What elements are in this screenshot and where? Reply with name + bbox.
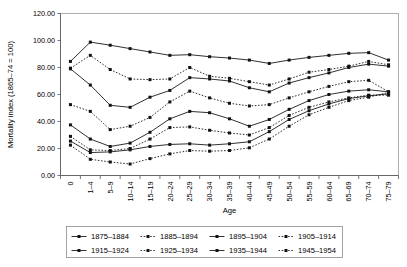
data-point-marker xyxy=(268,84,271,87)
data-point-marker xyxy=(228,149,231,152)
x-axis-tick-label: 65–69 xyxy=(344,182,353,202)
data-point-marker xyxy=(109,44,112,47)
data-point-marker xyxy=(387,59,390,62)
data-point-marker xyxy=(367,51,370,54)
legend-marker-swatch xyxy=(216,235,219,238)
data-point-marker xyxy=(69,67,72,70)
y-axis-title: Mortality index (1865–74 = 100) xyxy=(6,41,15,148)
data-point-marker xyxy=(308,76,311,79)
data-point-marker xyxy=(268,118,271,121)
data-point-marker xyxy=(228,131,231,134)
data-point-marker xyxy=(89,84,92,87)
series-line xyxy=(70,80,388,129)
data-point-marker xyxy=(208,55,211,58)
x-axis-tick-label: 10–14 xyxy=(126,182,135,202)
x-axis-title: Age xyxy=(223,206,237,215)
data-point-marker xyxy=(327,71,330,74)
data-point-marker xyxy=(129,142,132,145)
y-axis-tick-label: 60.00 xyxy=(37,90,55,99)
data-point-marker xyxy=(148,78,151,81)
x-axis-tick-label: 30–34 xyxy=(205,182,214,202)
data-point-marker xyxy=(168,77,171,80)
x-axis-tick-label: 60–64 xyxy=(325,182,334,202)
data-point-marker xyxy=(129,77,132,80)
data-point-marker xyxy=(288,125,291,128)
data-point-marker xyxy=(248,125,251,128)
data-point-marker xyxy=(148,145,151,148)
data-point-marker xyxy=(208,129,211,132)
data-point-marker xyxy=(148,138,151,141)
data-point-marker xyxy=(228,77,231,80)
series-1905-1914 xyxy=(69,79,390,131)
data-point-marker xyxy=(168,117,171,120)
data-point-marker xyxy=(109,104,112,107)
data-point-marker xyxy=(188,110,191,113)
data-point-marker xyxy=(168,126,171,129)
data-point-marker xyxy=(327,93,330,96)
x-axis-tick-label: 75–79 xyxy=(384,182,393,202)
data-point-marker xyxy=(109,150,112,153)
x-axis-tick-label: 40–44 xyxy=(245,182,254,202)
legend-label: 1885–1894 xyxy=(160,232,198,241)
legend-marker-swatch xyxy=(147,249,150,252)
data-point-marker xyxy=(109,128,112,131)
x-axis-tick-label: 55–59 xyxy=(305,182,314,202)
legend-marker-swatch xyxy=(285,249,288,252)
data-point-marker xyxy=(308,71,311,74)
mortality-index-chart: 0.0020.0040.0060.0080.00100.00120.00Mort… xyxy=(0,0,407,267)
data-point-marker xyxy=(168,54,171,57)
data-point-marker xyxy=(228,102,231,105)
data-point-marker xyxy=(268,62,271,65)
data-point-marker xyxy=(129,163,132,166)
data-point-marker xyxy=(367,88,370,91)
x-axis-tick-label: 25–29 xyxy=(185,182,194,202)
y-axis-tick-label: 0.00 xyxy=(41,171,55,180)
data-point-marker xyxy=(89,148,92,151)
data-point-marker xyxy=(168,143,171,146)
data-point-marker xyxy=(367,63,370,66)
legend-label: 1925–1934 xyxy=(160,246,198,255)
data-point-marker xyxy=(168,100,171,103)
data-point-marker xyxy=(109,68,112,71)
data-point-marker xyxy=(89,110,92,113)
data-point-marker xyxy=(89,41,92,44)
data-point-marker xyxy=(208,77,211,80)
data-point-marker xyxy=(69,60,72,63)
data-point-marker xyxy=(208,150,211,153)
x-axis-tick-label: 50–54 xyxy=(285,182,294,202)
data-point-marker xyxy=(288,77,291,80)
data-point-marker xyxy=(268,126,271,129)
data-point-marker xyxy=(188,66,191,69)
data-point-marker xyxy=(327,85,330,88)
series-1935-1944 xyxy=(69,92,390,154)
legend-label: 1895–1904 xyxy=(229,232,267,241)
data-point-marker xyxy=(69,123,72,126)
data-point-marker xyxy=(248,146,251,149)
data-point-marker xyxy=(89,158,92,161)
data-point-marker xyxy=(148,116,151,119)
data-point-marker xyxy=(188,76,191,79)
data-point-marker xyxy=(367,60,370,63)
data-point-marker xyxy=(268,138,271,141)
data-point-marker xyxy=(228,142,231,145)
data-point-marker xyxy=(148,50,151,53)
data-point-marker xyxy=(208,144,211,147)
data-point-marker xyxy=(347,80,350,83)
y-axis-tick-label: 80.00 xyxy=(37,63,55,72)
data-point-marker xyxy=(89,151,92,154)
data-point-marker xyxy=(129,148,132,151)
data-point-marker xyxy=(288,108,291,111)
data-point-marker xyxy=(288,118,291,121)
data-point-marker xyxy=(69,144,72,147)
data-point-marker xyxy=(188,125,191,128)
data-point-marker xyxy=(268,130,271,133)
x-axis-tick-label: 5–9 xyxy=(106,182,115,194)
series-1915-1924 xyxy=(69,88,390,148)
data-point-marker xyxy=(109,145,112,148)
data-point-marker xyxy=(228,80,231,83)
x-axis-tick-label: 1–4 xyxy=(86,182,95,194)
data-point-marker xyxy=(208,96,211,99)
x-axis-tick-label: 70–74 xyxy=(364,182,373,202)
data-point-marker xyxy=(248,140,251,143)
data-point-marker xyxy=(148,131,151,134)
